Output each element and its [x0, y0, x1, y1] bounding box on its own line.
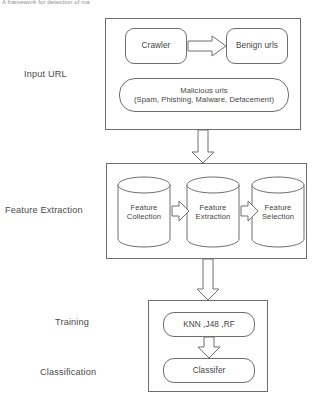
node-feature-selection-label-line2: Selection — [262, 212, 294, 221]
node-malicious-urls: Malicious urls (Spam, Phishing, Malware,… — [119, 78, 289, 112]
node-feature-collection-label-line2: Collection — [127, 212, 161, 221]
node-algorithms: KNN ,J48 ,RF — [163, 312, 255, 337]
node-feature-selection: Feature Selection — [251, 176, 305, 248]
stage-label-classification: Classification — [40, 367, 96, 378]
node-malicious-urls-label-line2: (Spam, Phishing, Malware, Defacement) — [134, 95, 274, 105]
stage-label-input-url: Input URL — [24, 69, 67, 80]
node-benign-urls: Benign urls — [226, 28, 288, 64]
node-crawler-label: Crawler — [142, 41, 171, 51]
node-benign-urls-label: Benign urls — [236, 41, 278, 51]
caption-sliver: A framework for detection of malicious U… — [2, 0, 90, 4]
node-feature-extraction-db-label-line1: Feature — [200, 203, 227, 212]
node-feature-collection-label-line1: Feature — [131, 203, 158, 212]
node-feature-selection-label-line1: Feature — [265, 203, 292, 212]
node-feature-extraction-db-label-line2: Extraction — [196, 212, 231, 221]
node-crawler: Crawler — [125, 28, 187, 64]
node-classifier-label: Classifer — [193, 366, 226, 376]
stage-label-training: Training — [55, 317, 89, 328]
node-algorithms-label: KNN ,J48 ,RF — [183, 320, 235, 330]
stage-label-feature-extraction: Feature Extraction — [5, 205, 83, 216]
node-feature-collection: Feature Collection — [117, 176, 171, 248]
node-malicious-urls-label-line1: Malicious urls — [134, 86, 274, 96]
diagram-canvas: A framework for detection of malicious U… — [0, 0, 325, 409]
arrow-feature-to-training-icon — [197, 259, 219, 300]
arrow-input-to-feature-icon — [192, 130, 214, 163]
node-classifier: Classifer — [163, 358, 255, 383]
node-feature-extraction-db: Feature Extraction — [186, 176, 240, 248]
